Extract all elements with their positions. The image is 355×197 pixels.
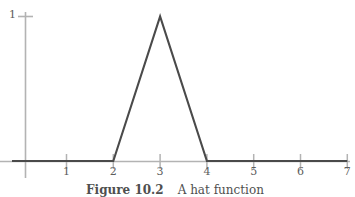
figure-caption-label: Figure 10.2	[86, 183, 164, 197]
x-axis-tick-label-2: 2	[103, 166, 123, 178]
x-axis-tick-label-1: 1	[57, 166, 77, 178]
figure-caption: Figure 10.2A hat function	[0, 183, 350, 197]
hat-function-curve	[12, 17, 347, 162]
x-axis-tick-label-5: 5	[244, 166, 264, 178]
y-axis-tick-label-1: 1	[2, 9, 16, 21]
x-axis-tick-label-4: 4	[197, 166, 217, 178]
x-axis-tick-label-7: 7	[337, 166, 355, 178]
x-axis-tick-label-6: 6	[291, 166, 311, 178]
x-axis-tick-label-3: 3	[150, 166, 170, 178]
figure-caption-text: A hat function	[178, 183, 264, 197]
